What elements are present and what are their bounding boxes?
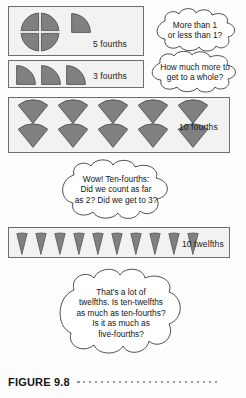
- model-box-five-fourths: 5 fourths: [8, 6, 144, 56]
- bubble-line: get to a whole?: [167, 72, 223, 83]
- figure-caption-label: FIGURE 9.8: [8, 376, 70, 388]
- bubble-line: Is it as much as: [92, 318, 150, 329]
- bubble-line: or less than 1?: [168, 30, 222, 41]
- model-box-ten-fourths: 10 fourths: [8, 97, 230, 153]
- model-label-ten-fourths: 10 fourths: [179, 123, 218, 132]
- figure-caption-row: FIGURE 9.8: [8, 376, 246, 388]
- caption-dot: [179, 381, 182, 384]
- twelfth-wedge: [168, 232, 180, 255]
- caption-dot: [101, 381, 104, 384]
- caption-dot: [173, 381, 176, 384]
- caption-dot: [215, 381, 218, 384]
- model-label-five-fourths: 5 fourths: [93, 40, 127, 49]
- caption-dot: [77, 381, 80, 384]
- thought-bubble-text: Wow! Ten-fourths: Did we count as far as…: [52, 158, 180, 221]
- bubble-line: Wow! Ten-fourths:: [83, 174, 150, 185]
- bubble-line: five-fourths?: [98, 329, 144, 340]
- twelfth-wedge: [16, 232, 28, 255]
- caption-dot: [125, 381, 128, 384]
- twelfth-wedge: [111, 232, 123, 255]
- figure-page: 5 fourths 3 fourths: [0, 0, 246, 398]
- thought-bubble-text: How much more to get to a whole?: [146, 51, 244, 93]
- bubble-line: as much as ten-fourths?: [76, 308, 165, 319]
- figure-caption-dot-rule: [77, 381, 246, 384]
- fourth-wedge: [97, 103, 129, 124]
- caption-dot: [209, 381, 212, 384]
- thought-bubble-more-or-less-than-1: More than 1 or less than 1?: [149, 8, 241, 52]
- thought-bubble-wow-ten-fourths: Wow! Ten-fourths: Did we count as far as…: [52, 158, 180, 221]
- quarter-wedge: [41, 65, 61, 85]
- caption-dot: [95, 381, 98, 384]
- whole-circle-four-quarters: [20, 12, 60, 52]
- thought-bubble-text: That's a lot of twelfths. Is ten-twelfth…: [50, 266, 192, 360]
- caption-dot: [83, 381, 86, 384]
- quarter-wedge: [66, 65, 86, 85]
- bubble-line: More than 1: [173, 20, 217, 31]
- bubble-line: That's a lot of: [96, 287, 146, 298]
- caption-dot: [167, 381, 170, 384]
- caption-dot: [155, 381, 158, 384]
- fourth-wedge: [137, 127, 169, 148]
- fourth-wedge: [17, 103, 49, 124]
- twelfth-wedge: [130, 232, 142, 255]
- caption-dot: [131, 381, 134, 384]
- caption-dot: [191, 381, 194, 384]
- bubble-line: as 2? Did we get to 3?: [75, 195, 158, 206]
- thought-bubble-how-much-more-to-whole: How much more to get to a whole?: [146, 51, 244, 93]
- caption-dot: [113, 381, 116, 384]
- bubble-line: twelfths. Is ten-twelfths: [79, 297, 163, 308]
- caption-dot: [161, 381, 164, 384]
- twelfth-wedge: [92, 232, 104, 255]
- twelfth-wedge: [35, 232, 47, 255]
- caption-dot: [89, 381, 92, 384]
- model-label-ten-twelfths: 10 twelfths: [182, 240, 224, 249]
- quarter-wedge: [16, 65, 36, 85]
- caption-dot: [107, 381, 110, 384]
- fourth-wedge: [97, 127, 129, 148]
- caption-dot: [149, 381, 152, 384]
- caption-dot: [119, 381, 122, 384]
- model-label-three-fourths: 3 fourths: [93, 72, 127, 81]
- caption-dot: [143, 381, 146, 384]
- model-box-three-fourths: 3 fourths: [8, 60, 144, 88]
- model-box-ten-twelfths: 10 twelfths: [8, 227, 230, 258]
- extra-quarter-wedge: [71, 13, 91, 33]
- fourth-wedge: [57, 103, 89, 124]
- fourth-wedge: [137, 103, 169, 124]
- caption-dot: [197, 381, 200, 384]
- twelfth-wedge: [54, 232, 66, 255]
- fourth-wedge: [177, 103, 209, 124]
- twelfth-wedge: [149, 232, 161, 255]
- twelfth-wedge: [73, 232, 85, 255]
- fourth-wedge: [17, 127, 49, 148]
- thought-bubble-lot-of-twelfths: That's a lot of twelfths. Is ten-twelfth…: [50, 266, 192, 360]
- caption-dot: [185, 381, 188, 384]
- caption-dot: [137, 381, 140, 384]
- caption-dot: [203, 381, 206, 384]
- bubble-line: Did we count as far: [80, 184, 151, 195]
- bubble-line: How much more to: [160, 62, 230, 73]
- fourth-wedge: [57, 127, 89, 148]
- thought-bubble-text: More than 1 or less than 1?: [149, 8, 241, 52]
